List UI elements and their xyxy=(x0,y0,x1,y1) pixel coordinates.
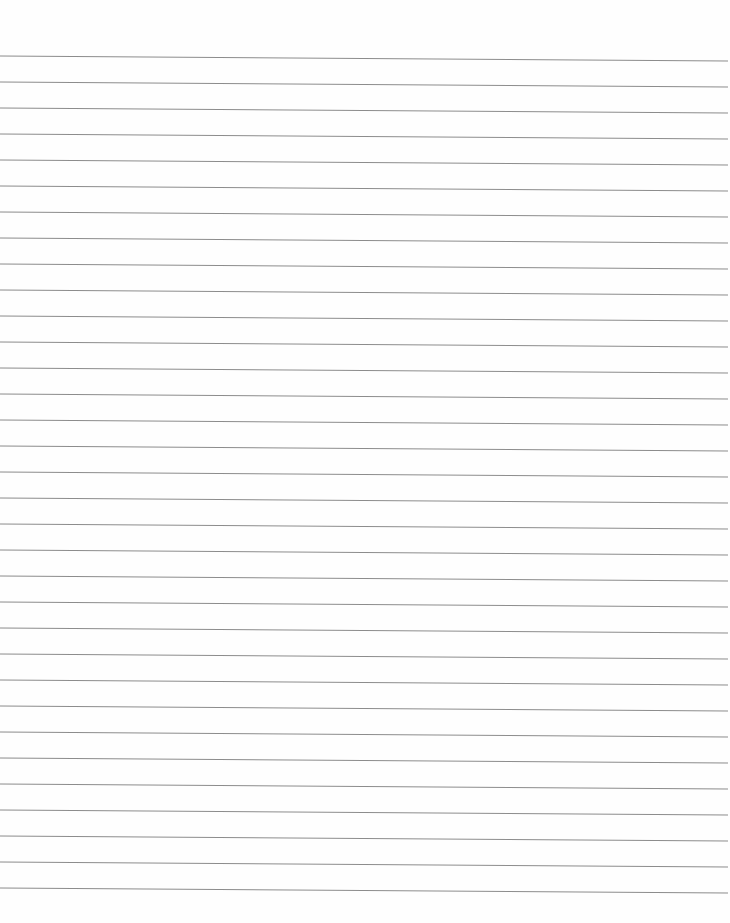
ruled-line xyxy=(0,290,728,295)
ruled-line xyxy=(0,680,728,685)
ruled-line xyxy=(0,186,728,191)
ruled-line xyxy=(0,82,728,87)
ruled-line xyxy=(0,316,728,321)
ruled-line xyxy=(0,264,728,269)
ruled-line xyxy=(0,238,728,243)
ruled-line xyxy=(0,446,728,451)
ruled-line xyxy=(0,810,728,815)
ruled-line xyxy=(0,56,728,61)
ruled-line xyxy=(0,784,728,789)
ruled-line xyxy=(0,550,728,555)
ruled-line xyxy=(0,758,728,763)
ruled-line xyxy=(0,498,728,503)
ruled-lines xyxy=(0,0,730,923)
ruled-line xyxy=(0,420,728,425)
ruled-line xyxy=(0,212,728,217)
ruled-line xyxy=(0,368,728,373)
ruled-line xyxy=(0,472,728,477)
ruled-line xyxy=(0,602,728,607)
ruled-line xyxy=(0,524,728,529)
ruled-line xyxy=(0,706,728,711)
ruled-line xyxy=(0,836,728,841)
ruled-line xyxy=(0,654,728,659)
ruled-line xyxy=(0,108,728,113)
ruled-line xyxy=(0,160,728,165)
ruled-line xyxy=(0,628,728,633)
ruled-line xyxy=(0,888,728,893)
ruled-line xyxy=(0,134,728,139)
ruled-line xyxy=(0,862,728,867)
lined-paper-sheet xyxy=(0,0,730,923)
ruled-line xyxy=(0,732,728,737)
ruled-line xyxy=(0,576,728,581)
ruled-line xyxy=(0,342,728,347)
ruled-line xyxy=(0,394,728,399)
